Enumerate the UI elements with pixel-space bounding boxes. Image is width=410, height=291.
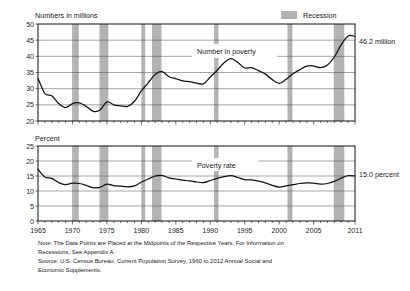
recession-legend-swatch: [281, 11, 297, 19]
x-tick-label: 1995: [237, 227, 253, 234]
y-tick-label: 25: [26, 143, 34, 150]
recession-band: [287, 146, 292, 221]
number-in-poverty-endpoint-label: 46.2 million: [359, 37, 395, 46]
x-tick-label: 2005: [306, 227, 322, 234]
y-tick-label: 10: [26, 188, 34, 195]
y-tick-label: 20: [26, 158, 34, 165]
y-tick-label: 0: [30, 218, 34, 225]
y-tick-label: 20: [26, 118, 34, 125]
source-line-2: Economic Supplements.: [38, 267, 102, 273]
source-line-1: Source: U.S. Census Bureau, Current Popu…: [38, 258, 272, 264]
poverty-rate-series-label: Poverty rate: [197, 161, 236, 170]
y-tick-label: 30: [26, 85, 34, 92]
recession-band: [334, 146, 345, 221]
x-tick-label: 1970: [65, 227, 81, 234]
y-tick-label: 15: [26, 173, 34, 180]
note-line-2: Recessions, See Appendix A.: [38, 249, 115, 255]
legend: Recession: [281, 11, 337, 20]
y-tick-label: 5: [30, 203, 34, 210]
y-tick-label: 35: [26, 69, 34, 76]
note-line-1: Note: The Data Points are Placed at the …: [38, 240, 284, 246]
x-tick-label: 1980: [134, 227, 150, 234]
recession-band: [141, 146, 145, 221]
x-tick-label: 1990: [202, 227, 218, 234]
recession-band: [152, 146, 161, 221]
x-tick-label: 1975: [99, 227, 115, 234]
y-tick-label: 40: [26, 53, 34, 60]
x-tick-label: 2011: [347, 227, 362, 234]
y-tick-label: 25: [26, 101, 34, 108]
x-tick-label: 1985: [168, 227, 184, 234]
top-chart-y-axis-title: Numbers in millions: [35, 11, 98, 20]
x-tick-label: 2000: [271, 227, 287, 234]
y-tick-label: 45: [26, 37, 34, 44]
y-tick-label: 50: [26, 21, 34, 28]
number-in-poverty-series-label: Number in poverty: [197, 47, 256, 56]
bottom-chart-y-axis-title: Percent: [35, 134, 60, 143]
poverty-statistics-figure: Recession Numbers in millions 2025303540…: [0, 0, 410, 291]
x-tick-label: 1965: [30, 227, 46, 234]
recession-band: [214, 146, 218, 221]
recession-legend-label: Recession: [303, 11, 337, 20]
poverty-rate-endpoint-label: 15.0 percent: [359, 170, 399, 179]
